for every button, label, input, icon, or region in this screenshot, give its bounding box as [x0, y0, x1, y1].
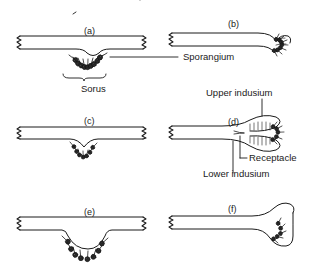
annotation-upper-indusium: Upper indusium — [206, 88, 273, 98]
panel-label-d: (d) — [228, 118, 239, 127]
panel-e-drawing — [17, 217, 146, 262]
panel-label-a: (a) — [84, 27, 95, 36]
panel-a-drawing — [17, 12, 178, 81]
fern-sorus-diagram — [0, 0, 309, 269]
annotation-receptacle: Receptacle — [249, 153, 297, 163]
panel-label-f: (f) — [228, 205, 237, 214]
panel-label-e: (e) — [84, 208, 95, 217]
annotation-sporangium: Sporangium — [183, 52, 234, 62]
annotation-lower-indusium: Lower indusium — [203, 169, 270, 179]
annotation-sorus: Sorus — [81, 84, 106, 94]
panel-label-b: (b) — [228, 20, 239, 29]
panel-c-drawing — [17, 127, 146, 159]
panel-label-c: (c) — [84, 117, 95, 126]
